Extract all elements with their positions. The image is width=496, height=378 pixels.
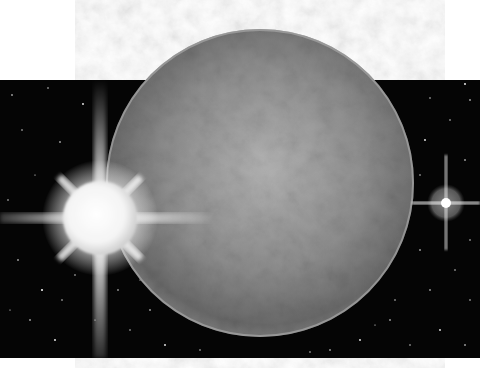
distant-star	[412, 155, 480, 250]
space-illustration	[0, 0, 496, 378]
planet	[106, 29, 414, 337]
